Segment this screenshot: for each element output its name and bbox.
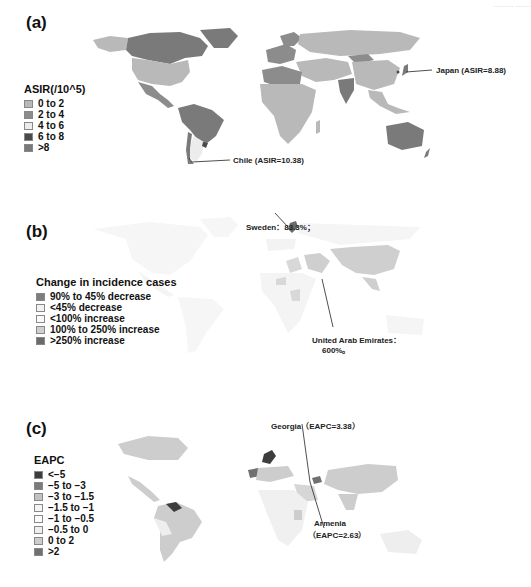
legend-item: 2 to 4 (24, 110, 85, 121)
legend-item: <45% decrease (36, 303, 177, 314)
legend-incidence-change: Change in incidence cases 90% to 45% dec… (36, 277, 177, 347)
legend-item: <−5 (34, 470, 94, 481)
legend-swatch (34, 537, 43, 545)
legend-title-eapc: EAPC (34, 455, 94, 467)
legend-title-incidence: Change in incidence cases (36, 277, 177, 289)
legend-swatch (24, 133, 33, 141)
legend-swatch (36, 337, 45, 345)
legend-item: 100% to 250% increase (36, 325, 177, 336)
legend-swatch (34, 504, 43, 512)
annotation-armenia-line2: （EAPC=2.63） (308, 529, 366, 540)
legend-item: 0 to 2 (24, 99, 85, 110)
legend-item: 4 to 6 (24, 121, 85, 132)
annotation-armenia-line1: Armenia (314, 519, 346, 528)
legend-item: −5 to −3 (34, 481, 94, 492)
legend-swatch (34, 493, 43, 501)
legend-title-asir: ASIR(/10^5) (24, 84, 85, 96)
legend-swatch (24, 100, 33, 108)
legend-swatch (36, 304, 45, 312)
legend-swatch (36, 315, 45, 323)
legend-swatch (34, 526, 43, 534)
legend-asir: ASIR(/10^5) 0 to 2 2 to 4 4 to 6 6 to 8 … (24, 84, 85, 154)
annotation-uae-line2: 600%。 (322, 344, 350, 355)
legend-item: >250% increase (36, 336, 177, 347)
annotation-sweden: Sweden：83.3%； (246, 221, 315, 232)
legend-item: 90% to 45% decrease (36, 292, 177, 303)
world-map-asir (90, 28, 430, 168)
legend-item: 6 to 8 (24, 132, 85, 143)
legend-swatch (24, 122, 33, 130)
panel-b: (b) Sweden：83.3%； United Arab Emirates： … (0, 195, 531, 395)
legend-swatch (24, 144, 33, 152)
legend-swatch (24, 111, 33, 119)
legend-item: >2 (34, 547, 94, 558)
annotation-japan: Japan (ASIR=8.88) (436, 66, 506, 75)
panel-c: (c) Georgia（EAPC=3.38） Armenia (0, 395, 531, 587)
legend-swatch (36, 293, 45, 301)
legend-item: −0.5 to 0 (34, 525, 94, 536)
legend-swatch (34, 548, 43, 556)
legend-item: −1.5 to −1 (34, 503, 94, 514)
panel-label-c: (c) (26, 419, 47, 439)
world-map-eapc (118, 430, 438, 570)
annotation-chile: Chile (ASIR=10.38) (233, 156, 304, 165)
legend-swatch (34, 471, 43, 479)
panel-a: (a) (0, 0, 531, 195)
legend-eapc: EAPC <−5 −5 to −3 −3 to −1.5 −1.5 to −1 … (34, 455, 94, 558)
legend-swatch (34, 515, 43, 523)
annotation-georgia: Georgia（EAPC=3.38） (271, 420, 360, 431)
legend-item: <100% increase (36, 314, 177, 325)
legend-swatch (36, 326, 45, 334)
legend-item: >8 (24, 143, 85, 154)
legend-item: −3 to −1.5 (34, 492, 94, 503)
legend-item: 0 to 2 (34, 536, 94, 547)
legend-swatch (34, 482, 43, 490)
panel-label-b: (b) (26, 222, 48, 242)
legend-item: −1 to −0.5 (34, 514, 94, 525)
panel-label-a: (a) (26, 13, 47, 33)
